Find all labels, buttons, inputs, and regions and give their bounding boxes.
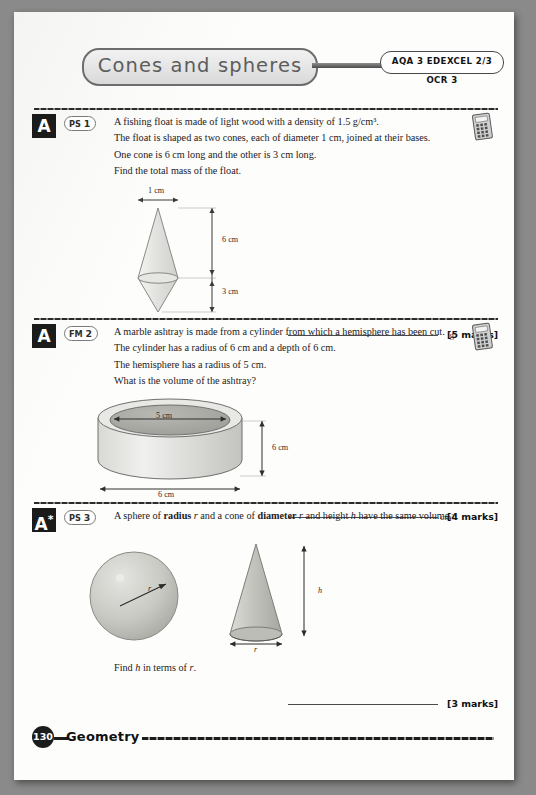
figure-base-label: 6 cm	[158, 490, 174, 499]
question-line: Find h in terms of r.	[114, 660, 500, 676]
footer-section-title: Geometry	[66, 729, 139, 744]
page-title: Cones and spheres	[84, 50, 316, 82]
grade-badge: A	[32, 324, 56, 348]
figure-cylinder-ashtray: 5 cm 6 cm 6 cm	[32, 394, 500, 500]
question-tag: PS 1	[64, 116, 96, 131]
calculator-icon	[470, 322, 496, 352]
tag-prefix: PS	[69, 513, 81, 523]
tag-number: 2	[86, 328, 93, 339]
figure-sphere-and-cone: r h r	[32, 538, 500, 654]
question-line: One cone is 6 cm long and the other is 3…	[114, 147, 500, 163]
tag-number: 1	[84, 118, 91, 129]
calculator-icon	[470, 112, 496, 142]
question-line: The hemisphere has a radius of 5 cm.	[114, 357, 500, 373]
question-text: A sphere of radius r and a cone of diame…	[114, 508, 500, 524]
cone-height-label: h	[318, 586, 322, 595]
question-2: A FM 2 A marble ashtray is made from a c…	[32, 320, 500, 494]
question-3: A PS 3 A sphere of radius r and a cone o…	[32, 504, 500, 688]
figure-double-cone: 1 cm 6 cm 3 cm	[32, 186, 500, 318]
tag-prefix: PS	[69, 119, 81, 129]
question-line: Find the total mass of the float.	[114, 163, 500, 179]
question-text: A marble ashtray is made from a cylinder…	[114, 324, 500, 390]
question-1: A PS 1 A fishing float is made of light …	[32, 110, 500, 310]
answer-row: [3 marks]	[32, 691, 500, 708]
footer-rule-right	[142, 737, 494, 740]
question-tag: PS 3	[64, 510, 96, 525]
figure-upper-label: 6 cm	[222, 235, 238, 244]
closing-instruction: Find h in terms of r.	[114, 660, 500, 676]
exam-board-badge: AQA 3 EDEXCEL 2/3 OCR 3	[380, 51, 504, 74]
question-line: The float is shaped as two cones, each o…	[114, 130, 500, 146]
marks-label: [3 marks]	[447, 698, 498, 709]
question-line: A marble ashtray is made from a cylinder…	[114, 324, 500, 340]
grade-badge: A	[32, 114, 56, 138]
cone-base-label: r	[254, 645, 257, 654]
tag-number: 3	[84, 512, 91, 523]
page-footer: 130 Geometry	[32, 726, 494, 748]
figure-height-label: 6 cm	[272, 443, 288, 452]
exam-board-label: AQA 3 EDEXCEL 2/3 OCR 3	[381, 52, 503, 90]
question-line: The cylinder has a radius of 6 cm and a …	[114, 340, 500, 356]
question-line: A sphere of radius r and a cone of diame…	[114, 508, 500, 524]
question-line: A fishing float is made of light wood wi…	[114, 114, 500, 130]
worksheet-page: Cones and spheres AQA 3 EDEXCEL 2/3 OCR …	[14, 12, 514, 780]
tag-prefix: FM	[69, 329, 83, 339]
page-header: Cones and spheres AQA 3 EDEXCEL 2/3 OCR …	[32, 48, 500, 94]
answer-line[interactable]	[288, 703, 438, 705]
title-connector-rule	[312, 63, 386, 68]
question-line: What is the volume of the ashtray?	[114, 373, 500, 389]
keyword-diameter: diameter	[257, 510, 296, 521]
sphere-radius-label: r	[148, 584, 151, 593]
page-title-pill: Cones and spheres	[82, 48, 318, 86]
grade-badge: A	[32, 508, 56, 532]
figure-lower-label: 3 cm	[222, 287, 238, 296]
keyword-radius: radius	[164, 510, 192, 521]
page-number: 130	[32, 726, 54, 748]
question-text: A fishing float is made of light wood wi…	[114, 114, 500, 180]
figure-width-label: 1 cm	[148, 186, 164, 195]
figure-inner-label: 5 cm	[156, 411, 172, 420]
question-tag: FM 2	[64, 326, 98, 341]
